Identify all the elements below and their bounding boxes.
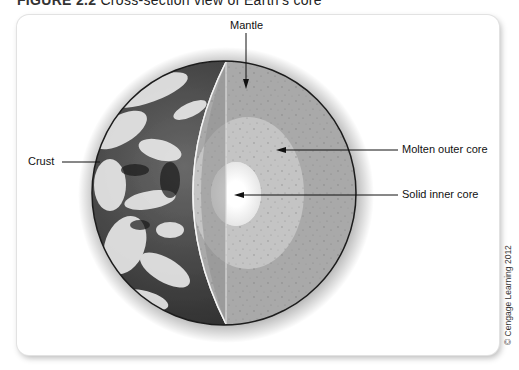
earth-cross-section-diagram [0, 0, 519, 370]
label-mantle: Mantle [230, 19, 263, 31]
label-solid-inner-core: Solid inner core [402, 188, 478, 200]
copyright-credit: © Cengage Learning 2012 [503, 245, 513, 345]
label-crust: Crust [28, 155, 54, 167]
label-molten-outer-core: Molten outer core [402, 143, 488, 155]
